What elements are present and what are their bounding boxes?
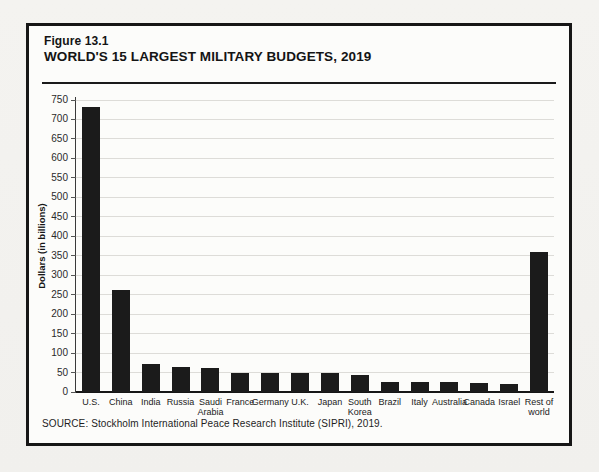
y-tick-mark-600 — [71, 158, 76, 159]
y-tick-label-650: 650 — [36, 134, 68, 144]
y-tick-mark-550 — [71, 177, 76, 178]
y-tick-label-150: 150 — [36, 329, 68, 339]
gridline-400 — [76, 236, 554, 237]
y-tick-label-550: 550 — [36, 173, 68, 183]
gridline-300 — [76, 275, 554, 276]
bar-canada — [470, 383, 488, 392]
gridline-650 — [76, 138, 554, 139]
y-tick-mark-500 — [71, 197, 76, 198]
bar-south-korea — [351, 375, 369, 392]
y-tick-label-300: 300 — [36, 270, 68, 280]
gridline-450 — [76, 216, 554, 217]
y-tick-label-250: 250 — [36, 290, 68, 300]
y-tick-label-100: 100 — [36, 348, 68, 358]
y-tick-mark-0 — [71, 392, 76, 393]
y-tick-label-700: 700 — [36, 114, 68, 124]
y-tick-mark-750 — [71, 100, 76, 101]
gridline-500 — [76, 197, 554, 198]
y-tick-label-400: 400 — [36, 231, 68, 241]
bar-japan — [321, 373, 339, 392]
figure-header: Figure 13.1 WORLD'S 15 LARGEST MILITARY … — [44, 34, 371, 65]
header-rule — [42, 82, 556, 84]
y-tick-label-0: 0 — [36, 387, 68, 397]
y-tick-mark-650 — [71, 138, 76, 139]
gridline-250 — [76, 294, 554, 295]
gridline-350 — [76, 255, 554, 256]
y-tick-label-450: 450 — [36, 212, 68, 222]
figure-box: Figure 13.1 WORLD'S 15 LARGEST MILITARY … — [26, 23, 572, 446]
bar-france — [231, 373, 249, 392]
y-tick-label-200: 200 — [36, 309, 68, 319]
gridline-200 — [76, 314, 554, 315]
figure-title: WORLD'S 15 LARGEST MILITARY BUDGETS, 201… — [44, 49, 371, 65]
gridline-100 — [76, 353, 554, 354]
y-tick-label-600: 600 — [36, 153, 68, 163]
y-tick-mark-200 — [71, 314, 76, 315]
y-tick-mark-50 — [71, 372, 76, 373]
gridline-550 — [76, 177, 554, 178]
bar-rest-of-world — [530, 252, 548, 392]
y-tick-mark-700 — [71, 119, 76, 120]
y-tick-label-50: 50 — [36, 368, 68, 378]
source-line: SOURCE: Stockholm International Peace Re… — [42, 418, 383, 429]
gridline-750 — [76, 100, 554, 101]
y-axis-line — [75, 97, 76, 393]
gridline-700 — [76, 119, 554, 120]
book-page-background: Figure 13.1 WORLD'S 15 LARGEST MILITARY … — [0, 0, 599, 472]
y-tick-label-750: 750 — [36, 95, 68, 105]
figure-number: Figure 13.1 — [44, 34, 371, 49]
bar-india — [142, 364, 160, 392]
y-tick-mark-100 — [71, 353, 76, 354]
bar-china — [112, 290, 130, 392]
y-tick-mark-350 — [71, 255, 76, 256]
y-tick-mark-150 — [71, 333, 76, 334]
plot-area: 0501001502002503003504004505005506006507… — [76, 100, 554, 392]
y-tick-label-350: 350 — [36, 251, 68, 261]
bar-russia — [172, 367, 190, 392]
bar-israel — [500, 384, 518, 392]
bar-brazil — [381, 382, 399, 393]
y-tick-mark-300 — [71, 275, 76, 276]
bar-chart: Dollars (in billions) 050100150200250300… — [76, 100, 554, 392]
gridline-600 — [76, 158, 554, 159]
gridline-150 — [76, 333, 554, 334]
y-tick-mark-250 — [71, 294, 76, 295]
y-tick-mark-450 — [71, 216, 76, 217]
bar-italy — [411, 382, 429, 393]
bar-saudi-arabia — [201, 368, 219, 392]
bar-australia — [440, 382, 458, 392]
bar-germany — [261, 373, 279, 392]
x-tick-label-rest-of-world: Rest of world — [515, 397, 563, 417]
y-tick-label-500: 500 — [36, 192, 68, 202]
bar-u-s- — [82, 107, 100, 392]
bar-u-k- — [291, 373, 309, 392]
y-tick-mark-400 — [71, 236, 76, 237]
